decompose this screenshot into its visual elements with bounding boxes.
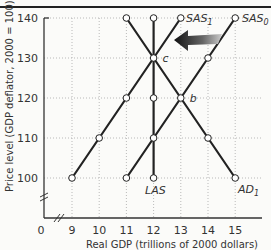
- axes: 10011012013014009101112131415Real GDP (t…: [4, 0, 262, 250]
- data-point: [232, 175, 239, 182]
- point-label-b: b: [190, 92, 197, 105]
- y-tick-label: 140: [17, 12, 38, 25]
- data-point: [205, 135, 212, 142]
- y-axis-title: Price level (GDP deflator, 2000 = 100): [4, 0, 15, 192]
- data-point: [150, 135, 157, 142]
- x-tick-label: 12: [147, 224, 161, 237]
- x-tick-label: 10: [92, 224, 106, 237]
- y-tick-label: 130: [17, 52, 38, 65]
- x-tick-label: 0: [38, 224, 45, 237]
- x-tick-label: 15: [228, 224, 242, 237]
- data-point: [123, 15, 130, 22]
- data-point: [69, 175, 76, 182]
- label-sas0: SAS0: [242, 12, 269, 27]
- data-point: [150, 175, 157, 182]
- x-tick-label: 14: [201, 224, 215, 237]
- x-tick-label: 11: [119, 224, 133, 237]
- x-tick-label: 9: [69, 224, 76, 237]
- data-point: [150, 95, 157, 102]
- data-point: [178, 95, 185, 102]
- data-point: [205, 55, 212, 62]
- label-ad1: AD1: [237, 183, 259, 198]
- y-tick-label: 100: [17, 172, 38, 185]
- data-point: [150, 15, 157, 22]
- y-tick-label: 110: [17, 132, 38, 145]
- x-tick-label: 13: [174, 224, 188, 237]
- x-axis-title: Real GDP (trillions of 2000 dollars): [86, 239, 258, 250]
- data-point: [123, 175, 130, 182]
- data-point: [178, 15, 185, 22]
- point-label-c: c: [163, 52, 169, 65]
- data-point: [232, 15, 239, 22]
- label-las: LAS: [145, 184, 166, 197]
- data-point: [150, 55, 157, 62]
- chart: 10011012013014009101112131415Real GDP (t…: [0, 0, 271, 250]
- label-sas1: SAS1: [186, 12, 213, 27]
- data-point: [123, 95, 130, 102]
- data-point: [96, 135, 103, 142]
- y-tick-label: 120: [17, 92, 38, 105]
